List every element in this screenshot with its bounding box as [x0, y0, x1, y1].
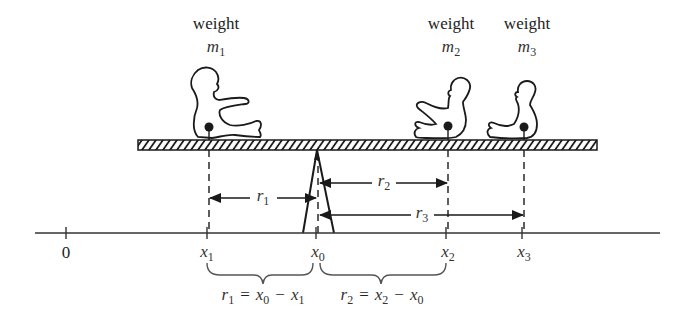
- weight-label-m1: weight m1: [193, 14, 240, 59]
- tick-label-origin: 0: [62, 243, 71, 262]
- mass-symbol-m3: m3: [518, 37, 536, 59]
- weight-word: weight: [428, 14, 475, 33]
- mass-symbol-m2: m2: [442, 37, 460, 59]
- brace-r1: [207, 263, 313, 284]
- tick-label-x0: x0: [310, 242, 325, 264]
- child-figure-1-icon: [191, 68, 261, 140]
- distance-label-r1: r1: [257, 186, 270, 208]
- child-figure-3-icon: [487, 81, 537, 140]
- weight-word: weight: [193, 14, 240, 33]
- distance-label-r2: r2: [378, 171, 391, 193]
- seesaw-plank: [138, 140, 597, 150]
- weight-word: weight: [504, 14, 551, 33]
- equation-r2: r2=x2−x0: [341, 285, 424, 307]
- tick-label-x2: x2: [440, 242, 455, 264]
- equation-r1: r1=x0−x1: [222, 285, 305, 307]
- child-figure-2-icon: [415, 78, 471, 140]
- weight-label-m2: weight m2: [428, 14, 475, 59]
- tick-label-x3: x3: [516, 242, 531, 264]
- seesaw-diagram: weight m1 weight m2 weight m3: [0, 0, 691, 315]
- mass-symbol-m1: m1: [207, 37, 225, 59]
- tick-label-x1: x1: [199, 242, 214, 264]
- weight-label-m3: weight m3: [504, 14, 551, 59]
- brace-r2: [320, 263, 446, 284]
- distance-label-r3: r3: [416, 203, 429, 225]
